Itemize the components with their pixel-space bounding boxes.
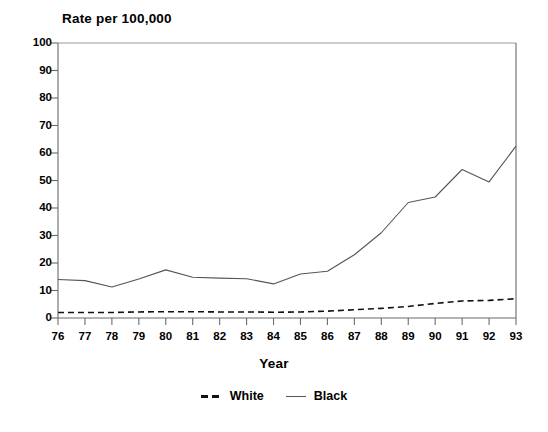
series-line-white <box>58 299 516 313</box>
legend-item-black[interactable]: Black <box>285 390 347 403</box>
y-tick-label: 0 <box>12 312 52 324</box>
data-series-group <box>58 146 516 312</box>
chart-title: Rate per 100,000 <box>62 11 172 26</box>
y-tick-label: 60 <box>12 147 52 159</box>
x-axis-tick-marks <box>58 318 516 325</box>
legend-label: Black <box>314 390 347 403</box>
y-tick-label: 40 <box>12 202 52 214</box>
y-tick-label: 50 <box>12 175 52 187</box>
solid-line-icon <box>285 391 308 401</box>
y-tick-label: 100 <box>12 37 52 49</box>
plot-frame <box>58 43 516 318</box>
y-tick-label: 80 <box>12 92 52 104</box>
y-tick-label: 70 <box>12 120 52 132</box>
dashed-line-icon <box>201 391 224 401</box>
x-axis-title: Year <box>0 356 548 371</box>
series-line-black <box>58 146 516 287</box>
y-tick-label: 20 <box>12 257 52 269</box>
y-axis-tick-marks <box>51 43 58 318</box>
y-tick-label: 30 <box>12 230 52 242</box>
legend-item-white[interactable]: White <box>201 390 264 403</box>
x-tick-label: 93 <box>499 331 533 343</box>
legend-label: White <box>230 390 264 403</box>
chart-legend: WhiteBlack <box>0 390 548 403</box>
y-tick-label: 10 <box>12 285 52 297</box>
chart-figure: Rate per 100,000 1009080706050403020100 … <box>0 0 548 432</box>
y-tick-label: 90 <box>12 65 52 77</box>
